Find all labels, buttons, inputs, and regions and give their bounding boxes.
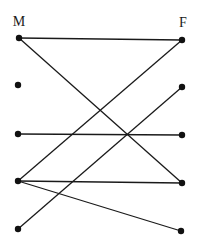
edge-m4-f5 xyxy=(18,181,181,231)
node-f3 xyxy=(179,132,185,138)
node-m3 xyxy=(15,131,21,137)
edge-m4-f1 xyxy=(18,40,182,181)
bipartite-graph-diagram: M F xyxy=(0,0,198,246)
node-f2 xyxy=(179,84,185,90)
edges-layer xyxy=(18,38,182,231)
node-m4 xyxy=(15,178,21,184)
edge-m3-f3 xyxy=(18,134,182,135)
edge-m5-f2 xyxy=(18,87,182,229)
node-m5 xyxy=(15,226,21,232)
node-f4 xyxy=(179,180,185,186)
edge-m1-f1 xyxy=(19,38,182,40)
column-label-m: M xyxy=(13,14,26,29)
edge-m4-f4 xyxy=(18,181,182,183)
column-label-f: F xyxy=(179,15,187,30)
node-m2 xyxy=(15,82,21,88)
node-m1 xyxy=(16,35,22,41)
node-f1 xyxy=(179,37,185,43)
node-f5 xyxy=(178,228,184,234)
